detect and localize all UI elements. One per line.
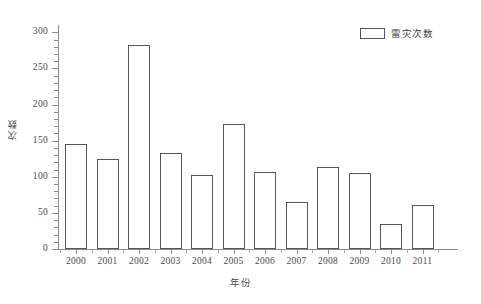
- y-tick-label: 100: [4, 171, 48, 181]
- x-tick-major: [202, 250, 203, 254]
- x-tick-minor: [312, 250, 313, 253]
- x-tick-minor: [375, 250, 376, 253]
- x-tick-major: [171, 250, 172, 254]
- y-tick-label: 0: [4, 243, 48, 253]
- x-tick-minor: [281, 250, 282, 253]
- x-tick-major: [265, 250, 266, 254]
- x-tick-label: 2011: [403, 256, 443, 266]
- y-axis-title: 次数: [6, 118, 20, 140]
- x-axis-line: [58, 249, 458, 250]
- x-tick-major: [139, 250, 140, 254]
- x-tick-major: [423, 250, 424, 254]
- bars-container: [58, 25, 460, 249]
- bar-2011: [412, 205, 434, 249]
- x-tick-major: [108, 250, 109, 254]
- x-tick-minor: [218, 250, 219, 253]
- y-tick-label: 200: [4, 99, 48, 109]
- bar-2008: [317, 167, 339, 249]
- bar-2005: [223, 124, 245, 249]
- bar-2010: [380, 224, 402, 249]
- bar-2009: [349, 173, 371, 249]
- x-tick-minor: [344, 250, 345, 253]
- y-tick-label: 250: [4, 62, 48, 72]
- bar-2004: [191, 175, 213, 249]
- x-tick-minor: [60, 250, 61, 253]
- y-tick-label: 300: [4, 26, 48, 36]
- bar-2000: [65, 144, 87, 250]
- x-tick-major: [360, 250, 361, 254]
- x-tick-minor: [155, 250, 156, 253]
- x-tick-minor: [186, 250, 187, 253]
- x-tick-minor: [249, 250, 250, 253]
- y-tick-major: [52, 249, 58, 250]
- bar-2002: [128, 45, 150, 250]
- x-tick-major: [297, 250, 298, 254]
- bar-2001: [97, 159, 119, 249]
- legend-swatch-icon: [360, 28, 385, 39]
- legend-label: 雷灾次数: [391, 26, 433, 40]
- bar-2006: [254, 172, 276, 249]
- x-tick-minor: [407, 250, 408, 253]
- bar-2003: [160, 153, 182, 249]
- bar-chart-figure: 050100150200250300 200020012002200320042…: [0, 0, 481, 304]
- x-tick-minor: [92, 250, 93, 253]
- x-tick-major: [391, 250, 392, 254]
- x-tick-major: [328, 250, 329, 254]
- x-tick-minor: [438, 250, 439, 253]
- x-axis-title: 年份: [0, 275, 481, 289]
- x-tick-minor: [123, 250, 124, 253]
- x-tick-major: [234, 250, 235, 254]
- bar-2007: [286, 202, 308, 249]
- x-tick-major: [76, 250, 77, 254]
- y-tick-label: 50: [4, 207, 48, 217]
- chart-legend: 雷灾次数: [360, 26, 433, 40]
